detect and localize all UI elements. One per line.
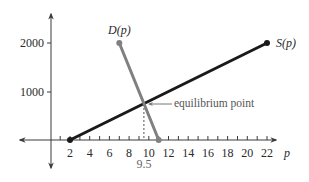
demand-label: D(p) [108,24,131,36]
x-tick-label-6: 6 [99,147,119,159]
supply-start-point [67,137,73,143]
x-tick-label-18: 18 [218,147,238,159]
x-tick-label-20: 20 [237,147,257,159]
x-tick-label-16: 16 [198,147,218,159]
x-tick-label-14: 14 [178,147,198,159]
x-tick-label-4: 4 [80,147,100,159]
x-tick-label-22: 22 [257,147,277,159]
equilibrium-label: equilibrium point [174,98,254,110]
y-tick-label-2000: 2000 [4,37,44,49]
x-tick-label-2: 2 [60,147,80,159]
x-axis-label: p [284,147,290,159]
x-ticks [60,136,267,140]
equilibrium-x-label: 9.5 [134,158,154,170]
demand-curve [119,43,158,140]
demand-end-point [156,137,162,143]
demand-start-point [116,40,122,46]
supply-end-point [264,40,270,46]
supply-curve [70,43,267,140]
supply-label: S(p) [276,37,296,49]
x-tick-label-12: 12 [159,147,179,159]
y-tick-label-1000: 1000 [4,86,44,98]
